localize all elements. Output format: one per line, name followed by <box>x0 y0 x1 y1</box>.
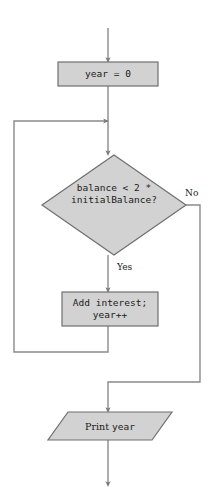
node-output-variable: year <box>112 421 135 432</box>
shape-layer <box>42 62 186 440</box>
node-body-shape <box>62 292 158 326</box>
node-init-shape <box>58 62 158 86</box>
node-output-keyword: Print <box>85 421 112 432</box>
edge-label-yes: Yes <box>117 262 132 272</box>
flowchart-diagram: year = 0 balance < 2 * initialBalance? A… <box>0 0 216 504</box>
edge-label-no: No <box>185 188 198 198</box>
node-condition-shape <box>42 155 186 255</box>
node-output-label: Print year <box>48 412 172 440</box>
